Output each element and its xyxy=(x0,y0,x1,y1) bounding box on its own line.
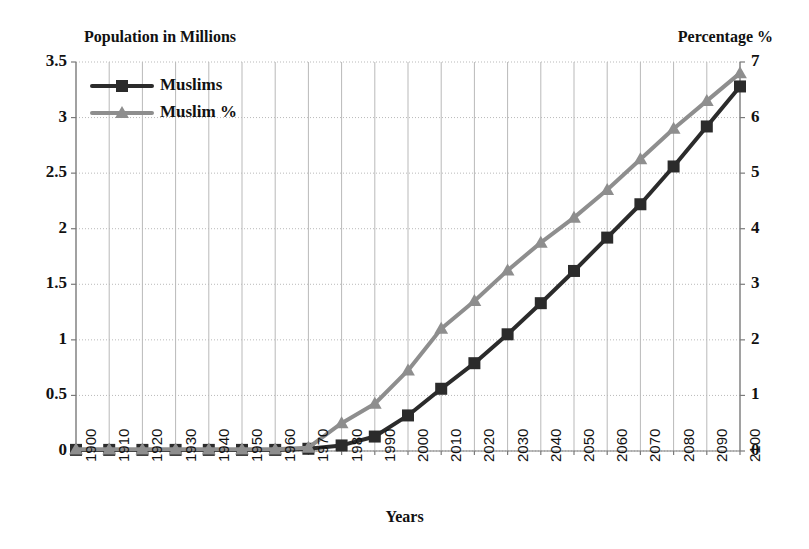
right-tick-label: 7 xyxy=(751,51,760,71)
x-tick-label: 2050 xyxy=(580,429,597,462)
x-tick-label: 2020 xyxy=(480,429,497,462)
legend-markers xyxy=(92,80,152,118)
x-tick-label: 2040 xyxy=(547,429,564,462)
x-tick-label: 1950 xyxy=(248,429,265,462)
right-tick-label: 2 xyxy=(751,329,760,349)
right-axis-ticks xyxy=(740,62,745,451)
legend-item-label-muslim-percent: Muslim % xyxy=(160,102,237,122)
x-tick-label: 1930 xyxy=(182,429,199,462)
x-tick-label: 1900 xyxy=(82,429,99,462)
plot-area xyxy=(0,0,809,549)
x-tick-label: 1940 xyxy=(215,429,232,462)
x-tick-label: 1970 xyxy=(314,429,331,462)
x-tick-label: 2090 xyxy=(713,429,730,462)
right-tick-label: 1 xyxy=(751,384,760,404)
right-tick-label: 6 xyxy=(751,107,760,127)
x-tick-label: 1960 xyxy=(281,429,298,462)
left-tick-label: 3 xyxy=(59,107,68,127)
x-tick-label: 1920 xyxy=(148,429,165,462)
x-tick-label: 1980 xyxy=(348,429,365,462)
right-tick-label: 5 xyxy=(751,162,760,182)
left-tick-label: 2.5 xyxy=(46,162,67,182)
left-tick-label: 2 xyxy=(59,218,68,238)
x-tick-label: 2080 xyxy=(680,429,697,462)
left-axis-ticks xyxy=(71,62,76,451)
left-tick-label: 0.5 xyxy=(46,384,67,404)
right-tick-label: 3 xyxy=(751,273,760,293)
right-tick-label: 4 xyxy=(751,218,760,238)
x-tick-label: 1910 xyxy=(115,429,132,462)
left-tick-label: 1.5 xyxy=(46,273,67,293)
left-tick-label: 1 xyxy=(59,329,68,349)
x-tick-label: 2000 xyxy=(414,429,431,462)
x-tick-label: 2030 xyxy=(514,429,531,462)
chart-container: Population in Millions Percentage % Year… xyxy=(0,0,809,549)
x-tick-label: 2070 xyxy=(646,429,663,462)
left-tick-label: 3.5 xyxy=(46,51,67,71)
x-tick-label: 2100 xyxy=(746,429,763,462)
x-tick-label: 1990 xyxy=(381,429,398,462)
legend-item-label-muslims: Muslims xyxy=(160,75,222,95)
x-tick-label: 2060 xyxy=(613,429,630,462)
x-tick-label: 2010 xyxy=(447,429,464,462)
left-tick-label: 0 xyxy=(59,440,68,460)
